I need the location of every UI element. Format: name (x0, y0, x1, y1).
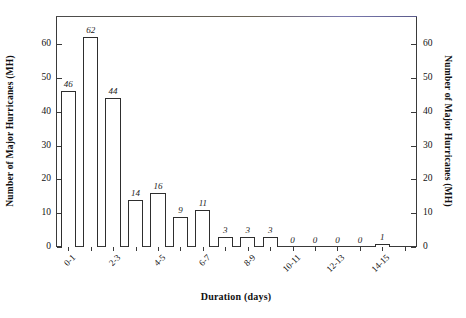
hurricane-duration-histogram: Number of Major Hurricanes (MH) Number o… (0, 0, 466, 318)
x-axis-tick (91, 247, 92, 251)
bar-cell: 0 (326, 17, 348, 247)
bar-cell: 3 (259, 17, 281, 247)
bar-cell: 62 (79, 17, 101, 247)
bar-value-label: 16 (153, 182, 162, 191)
x-axis-tick (405, 247, 406, 251)
bar-value-label: 14 (131, 189, 140, 198)
bar-cell: 46 (57, 17, 79, 247)
bar-cell: 44 (102, 17, 124, 247)
bar-value-label: 46 (64, 80, 73, 89)
bar-value-label: 0 (313, 236, 318, 245)
x-axis-tick-label: 10-11 (281, 253, 302, 274)
bar-value-label: 0 (290, 236, 295, 245)
x-axis-tick (382, 247, 383, 251)
x-axis-tick-label: 12-13 (326, 253, 347, 274)
y-axis-title-left: Number of Major Hurricanes (MH) (5, 55, 15, 206)
x-axis-tick (158, 247, 159, 251)
plot-area: 466244141691133300001 (57, 17, 416, 247)
y-axis-tick-label: 40 (33, 107, 51, 117)
x-axis-tick (180, 247, 181, 251)
x-axis-tick (113, 247, 114, 251)
x-axis-tick-label: 4-5 (152, 253, 167, 268)
bar (218, 237, 233, 247)
y-axis-tick-label: 60 (33, 39, 51, 49)
y-axis-tick-label: 40 (423, 107, 433, 117)
x-axis-tick (68, 247, 69, 251)
bar (83, 37, 98, 247)
y-axis-tick (411, 247, 416, 248)
bar-cell: 3 (214, 17, 236, 247)
bar-value-label: 9 (178, 206, 183, 215)
bar-value-label: 3 (223, 226, 228, 235)
x-axis-tick (360, 247, 361, 251)
x-axis-tick-label: 14-15 (370, 253, 391, 274)
bar (375, 244, 390, 247)
y-axis-tick (57, 247, 62, 248)
x-axis-tick-label: 6-7 (197, 253, 212, 268)
bar-value-label: 3 (268, 226, 273, 235)
x-axis-tick (293, 247, 294, 251)
x-axis-tick (270, 247, 271, 251)
x-axis-tick (136, 247, 137, 251)
y-axis-tick-label: 0 (423, 242, 428, 252)
bar-series: 466244141691133300001 (57, 17, 416, 247)
x-axis-tick (315, 247, 316, 251)
bar-value-label: 0 (358, 236, 363, 245)
bar-cell: 11 (192, 17, 214, 247)
bar (61, 91, 76, 247)
y-axis-tick-label: 20 (33, 174, 51, 184)
y-axis-tick-label: 20 (423, 174, 433, 184)
bar-cell: 16 (147, 17, 169, 247)
y-axis-tick-label: 50 (423, 73, 433, 83)
bar-value-label: 0 (335, 236, 340, 245)
y-axis-tick-label: 60 (423, 39, 433, 49)
bar-value-label: 11 (199, 199, 207, 208)
bar-cell: 1 (371, 17, 393, 247)
bar-value-label: 44 (109, 87, 118, 96)
bar (240, 237, 255, 247)
x-axis-tick (225, 247, 226, 251)
bar-value-label: 1 (380, 233, 385, 242)
y-axis-tick-label: 10 (33, 208, 51, 218)
y-axis-tick-label: 30 (33, 141, 51, 151)
bar-value-label: 62 (86, 26, 95, 35)
bar-cell: 9 (169, 17, 191, 247)
bar-cell: 0 (304, 17, 326, 247)
x-axis-title: Duration (days) (201, 291, 272, 302)
y-axis-tick-label: 50 (33, 73, 51, 83)
bar-value-label: 3 (245, 226, 250, 235)
x-axis-tick-label: 8-9 (242, 253, 257, 268)
bar (150, 193, 165, 247)
x-axis-tick (203, 247, 204, 251)
bar (128, 200, 143, 247)
bar (195, 210, 210, 247)
bar-cell (394, 17, 416, 247)
x-axis-tick (248, 247, 249, 251)
bar (105, 98, 120, 247)
bar-cell: 0 (349, 17, 371, 247)
bar-cell: 0 (281, 17, 303, 247)
y-axis-tick-label: 0 (33, 242, 51, 252)
y-axis-title-right: Number of Major Hurricanes (MH) (443, 55, 453, 206)
bar-cell: 3 (237, 17, 259, 247)
bar (263, 237, 278, 247)
y-axis-tick-label: 10 (423, 208, 433, 218)
x-axis-tick-label: 2-3 (108, 253, 123, 268)
y-axis-tick-label: 30 (423, 141, 433, 151)
x-axis-tick-label: 0-1 (63, 253, 78, 268)
bar (173, 217, 188, 247)
x-axis-tick (337, 247, 338, 251)
bar-cell: 14 (124, 17, 146, 247)
